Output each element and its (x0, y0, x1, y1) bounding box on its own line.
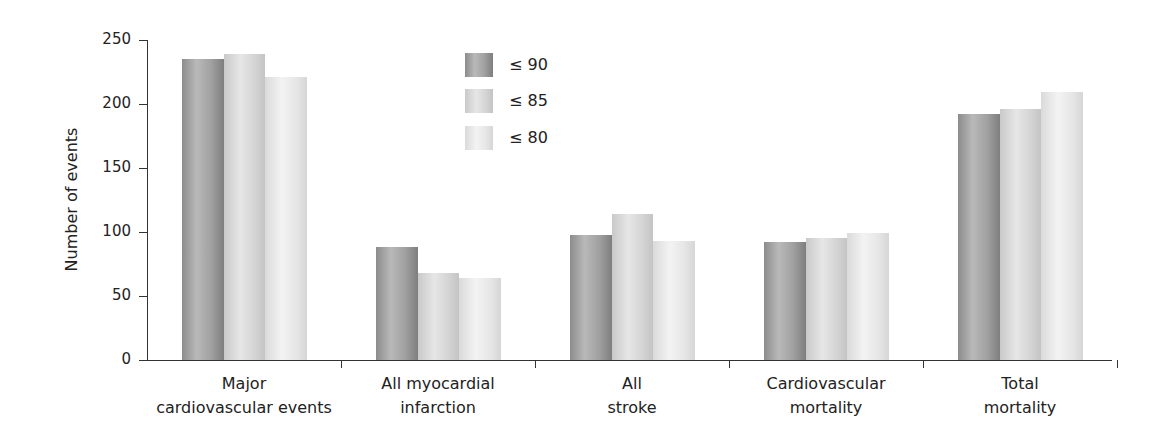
bar (958, 114, 1000, 360)
bar (224, 54, 266, 360)
y-axis-line (147, 40, 148, 360)
y-tick (139, 40, 147, 41)
legend-swatch (465, 89, 493, 113)
legend-label: ≤ 80 (509, 126, 548, 150)
x-tick (341, 360, 342, 368)
bar (1000, 109, 1042, 360)
x-tick-label-line: All (535, 372, 729, 396)
y-tick-label: 250 (91, 30, 131, 48)
bar (265, 77, 307, 360)
legend-swatch (465, 126, 493, 150)
y-tick (139, 360, 147, 361)
y-tick-label: 200 (91, 94, 131, 112)
legend-label: ≤ 85 (509, 89, 548, 113)
x-tick-label-line: stroke (535, 396, 729, 420)
bar (806, 238, 848, 360)
y-tick-label: 100 (91, 222, 131, 240)
bar (418, 273, 460, 360)
bar (612, 214, 654, 360)
x-tick-label-line: infarction (341, 396, 535, 420)
legend-label: ≤ 90 (509, 53, 548, 77)
y-tick-label: 150 (91, 158, 131, 176)
x-tick-label: Allstroke (535, 372, 729, 420)
y-tick (139, 296, 147, 297)
x-tick (1117, 360, 1118, 368)
x-tick-label-line: Major (147, 372, 341, 396)
legend-swatch (465, 53, 493, 77)
x-tick (535, 360, 536, 368)
bar-chart: Number of events 050100150200250 Majorca… (0, 0, 1175, 444)
x-tick-label-line: Cardiovascular (729, 372, 923, 396)
y-tick (139, 104, 147, 105)
bar (459, 278, 501, 360)
bar (376, 247, 418, 360)
bar (847, 233, 889, 360)
y-tick (139, 168, 147, 169)
x-tick-label-line: Total (923, 372, 1117, 396)
bar (1041, 92, 1083, 360)
y-tick (139, 232, 147, 233)
y-tick-label: 0 (91, 350, 131, 368)
bar (764, 242, 806, 360)
x-tick-label: Totalmortality (923, 372, 1117, 420)
x-tick-label-line: cardiovascular events (147, 396, 341, 420)
x-tick-label-line: mortality (729, 396, 923, 420)
x-tick-label: Majorcardiovascular events (147, 372, 341, 420)
y-tick-label: 50 (91, 286, 131, 304)
x-tick-label-line: All myocardial (341, 372, 535, 396)
bar (570, 235, 612, 360)
x-axis-line (147, 360, 1112, 361)
bar (182, 59, 224, 360)
bar (653, 241, 695, 360)
x-tick-label-line: mortality (923, 396, 1117, 420)
x-tick-label: Cardiovascularmortality (729, 372, 923, 420)
x-tick (729, 360, 730, 368)
x-tick (923, 360, 924, 368)
x-tick-label: All myocardialinfarction (341, 372, 535, 420)
y-axis-label: Number of events (62, 100, 81, 300)
